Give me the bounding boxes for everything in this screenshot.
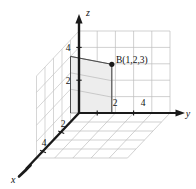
projection-shaded-region	[71, 56, 112, 113]
x-tick-4: 4	[42, 138, 47, 148]
x-axis	[19, 113, 79, 177]
y-tick-2: 2	[113, 98, 118, 108]
x-tick-2: 2	[61, 119, 66, 129]
z-tick-2: 2	[66, 76, 71, 86]
coordinate-axes-svg: z y x 4 2 2 4 2 4 B(1,2,3)	[0, 0, 196, 189]
coordinate-system-figure: z y x 4 2 2 4 2 4 B(1,2,3)	[0, 0, 196, 189]
point-b-marker	[109, 62, 114, 67]
y-tick-4: 4	[141, 98, 146, 108]
z-tick-4: 4	[66, 43, 71, 53]
z-axis-label: z	[85, 7, 90, 18]
y-axis-label: y	[185, 108, 191, 119]
point-b-label: B(1,2,3)	[116, 55, 148, 66]
x-axis-label: x	[10, 174, 16, 185]
